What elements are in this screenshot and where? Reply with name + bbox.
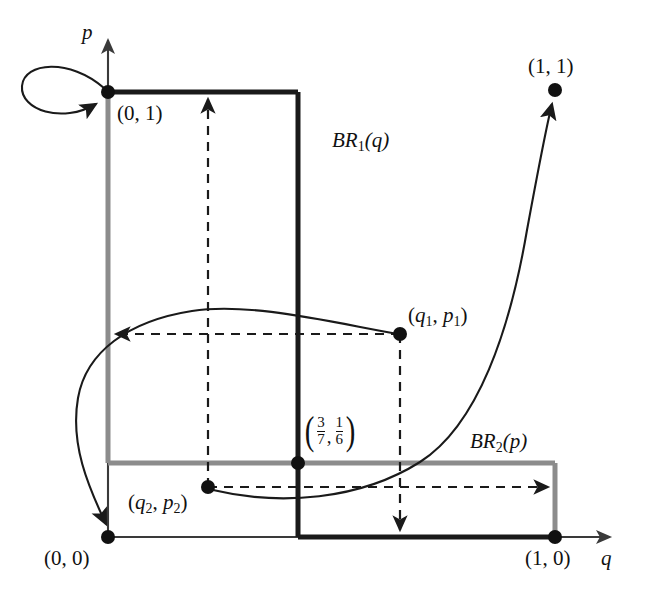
label-point-q1-p1: (q1, p1) [408,305,468,329]
br1-argument: (q) [365,128,390,152]
q2p2-q: q [135,490,146,514]
q1p1-p: p [443,303,454,327]
equilibrium-fraction-p: 1 6 [335,415,345,447]
q1p1-comma: , [433,303,444,327]
q1p1-q-subscript: 1 [426,314,433,329]
diagram-canvas [0,0,645,599]
br2-argument: (p) [503,429,528,453]
q2p2-comma: , [153,490,164,514]
equilibrium-q-denominator: 7 [317,431,325,448]
q2p2-close-paren: ) [181,490,188,514]
equilibrium-fraction-q: 3 7 [316,415,326,447]
br1-name: BR [332,128,358,152]
label-point-zero-one: (0, 1) [117,103,163,124]
equilibrium-open-paren: ( [305,415,315,448]
br1-subscript: 1 [358,139,365,154]
self-loop-at-zero-one [22,67,104,114]
label-point-q2-p2: (q2, p2) [128,492,188,516]
q2p2-open-paren: ( [128,490,135,514]
axis-label-q: q [601,548,612,569]
q1p1-q: q [415,303,426,327]
point-mixed-equilibrium [291,456,305,470]
equilibrium-q-numerator: 3 [317,415,325,431]
equilibrium-p-denominator: 6 [336,431,344,448]
label-mixed-equilibrium: ( 3 7 , 1 6 ) [303,415,357,448]
point-zero-one [101,85,115,99]
equilibrium-close-paren: ) [346,415,356,448]
point-origin [101,530,115,544]
q1p1-p-subscript: 1 [454,314,461,329]
equilibrium-p-numerator: 1 [336,415,344,431]
q1p1-close-paren: ) [461,303,468,327]
label-br2: BR2(p) [470,431,527,455]
axis-label-p: p [82,22,93,43]
label-point-one-one: (1, 1) [528,56,574,77]
br2-subscript: 2 [496,440,503,455]
point-q2-p2 [201,480,215,494]
point-one-zero [548,530,562,544]
label-br1: BR1(q) [332,130,389,154]
equilibrium-comma: , [326,427,335,448]
q2p2-p: p [163,490,174,514]
q2p2-p-subscript: 2 [174,501,181,516]
point-q1-p1 [393,327,407,341]
br2-name: BR [470,429,496,453]
label-point-origin: (0, 0) [44,548,90,569]
q1p1-open-paren: ( [408,303,415,327]
best-response-diagram: p q (0, 1) (0, 0) (1, 0) (1, 1) BR1(q) B… [0,0,645,599]
dashed-path-from-q2p2 [208,99,548,487]
q2p2-q-subscript: 2 [146,501,153,516]
label-point-one-zero: (1, 0) [525,548,571,569]
point-one-one [548,83,562,97]
